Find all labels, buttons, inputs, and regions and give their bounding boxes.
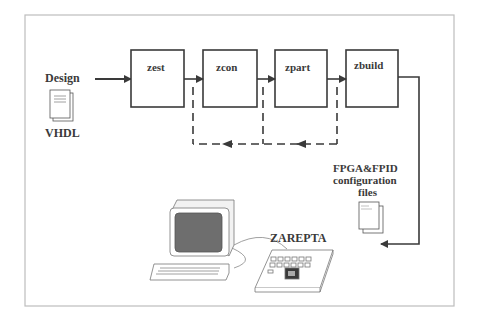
svg-text:zcon: zcon	[216, 61, 237, 73]
output-label-line3: files	[358, 186, 378, 198]
stage-zcon: zcon	[203, 50, 257, 107]
feedback-arrowhead-1	[222, 140, 232, 148]
stage-zbuild: zbuild	[346, 50, 398, 107]
desktop-computer-icon	[150, 200, 246, 280]
svg-text:zpart: zpart	[285, 61, 310, 73]
design-label: Design	[45, 71, 80, 85]
stage-zest: zest	[131, 50, 184, 107]
config-files-icon	[359, 202, 383, 233]
fpga-board-icon	[255, 250, 333, 292]
output-label-line2: configuration	[333, 174, 397, 186]
design-flow-diagram: Design VHDL zest zcon zpart zbuild	[0, 0, 477, 322]
vhdl-document-icon	[50, 90, 73, 121]
stage-zpart: zpart	[275, 50, 327, 107]
svg-text:zbuild: zbuild	[354, 59, 383, 71]
svg-text:zest: zest	[147, 61, 165, 73]
feedback-arrowhead-2	[296, 140, 306, 148]
vhdl-label: VHDL	[45, 126, 80, 140]
output-label-line1: FPGA&FPID	[333, 162, 398, 174]
zarepta-label: ZAREPTA	[270, 231, 327, 245]
